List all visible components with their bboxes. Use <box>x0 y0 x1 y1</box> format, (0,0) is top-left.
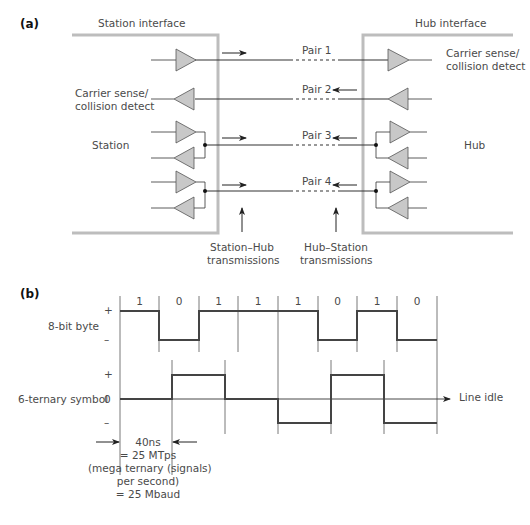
hub-station-transmissions-label: Hub–Station transmissions <box>300 241 372 267</box>
bit-value: 1 <box>357 295 397 308</box>
byte-plus-level: + <box>104 304 113 317</box>
station-interface-label: Station interface <box>98 17 186 30</box>
line-idle-label: Line idle <box>459 391 503 404</box>
ternary-minus-level: – <box>104 416 109 429</box>
pair-2-label: Pair 2 <box>302 83 332 96</box>
ternary-plus-level: + <box>104 368 113 381</box>
bit-value: 0 <box>318 295 357 308</box>
part-a-label: (a) <box>20 18 39 31</box>
bit-value: 1 <box>199 295 238 308</box>
pair-1-label: Pair 1 <box>302 44 332 57</box>
hub-interface-label: Hub interface <box>415 17 486 30</box>
hub-drivers <box>374 49 432 219</box>
hub-carrier-sense-label: Carrier sense/ collision detect <box>446 47 525 73</box>
bit-value: 1 <box>278 295 318 308</box>
byte-minus-level: – <box>104 333 109 346</box>
pair-4-label: Pair 4 <box>302 175 332 188</box>
bit-value: 1 <box>120 295 159 308</box>
timing-annotation: 40ns = 25 MTps (mega ternary (signals) p… <box>88 436 208 501</box>
bit-value: 0 <box>159 295 199 308</box>
ternary-zero-level: 0 <box>104 393 111 406</box>
ternary-label: 6-ternary symbol <box>18 393 108 406</box>
pair-3-label: Pair 3 <box>302 129 332 142</box>
pair-lines <box>195 60 388 191</box>
bit-value: 0 <box>397 295 437 308</box>
station-drivers <box>151 49 207 219</box>
byte-label: 8-bit byte <box>48 320 99 333</box>
station-label: Station <box>92 139 129 152</box>
direction-arrows <box>222 53 357 232</box>
byte-waveform <box>120 311 437 340</box>
hub-label: Hub <box>464 139 485 152</box>
bit-value: 1 <box>238 295 278 308</box>
station-carrier-sense-label: Carrier sense/ collision detect <box>75 87 154 113</box>
station-hub-transmissions-label: Station–Hub transmissions <box>207 241 277 267</box>
station-interface-box <box>72 35 218 233</box>
part-b-label: (b) <box>20 288 40 301</box>
